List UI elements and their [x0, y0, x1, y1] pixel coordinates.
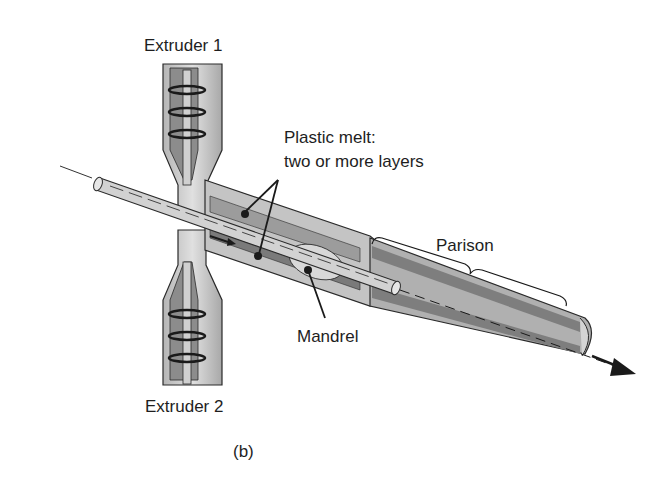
plastic-melt-label-line1: Plastic melt:: [284, 128, 376, 148]
figure-caption: (b): [233, 442, 254, 462]
parison-label: Parison: [436, 236, 494, 256]
extruder-1-label: Extruder 1: [144, 36, 222, 56]
axis-line: [60, 166, 92, 178]
mandrel-label: Mandrel: [297, 327, 358, 347]
plastic-melt-label-line2: two or more layers: [284, 152, 424, 172]
extruder-2-label: Extruder 2: [145, 397, 223, 417]
coextrusion-diagram: [0, 0, 672, 483]
